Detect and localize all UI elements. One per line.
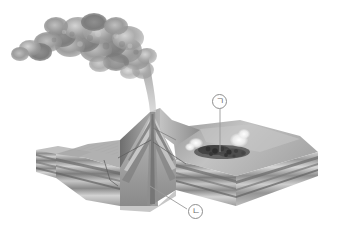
callout-label-giyeok[interactable]: ㄱ (212, 94, 227, 109)
callout-label-nieun[interactable]: ㄴ (188, 204, 203, 219)
parasitic-cone (194, 145, 250, 159)
ash-plume (11, 13, 157, 79)
volcano-figure: ㄱ ㄴ (0, 0, 338, 236)
block-cutaway (36, 108, 318, 212)
volcano-illustration (0, 0, 338, 236)
